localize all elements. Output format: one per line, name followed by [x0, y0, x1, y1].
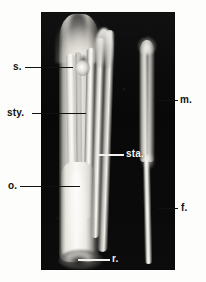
anther-groove: [146, 48, 149, 156]
leader-perianth: [114, 33, 140, 34]
leader-style: [32, 113, 86, 114]
specimen-detached-stamen: [129, 12, 173, 270]
label-ovary: o.: [8, 181, 17, 191]
specimen-photograph: [41, 12, 175, 270]
anther-cluster: [95, 28, 113, 68]
label-stigma: s.: [13, 62, 22, 72]
filament-stalk: [143, 160, 152, 264]
label-style: sty.: [7, 108, 24, 118]
leader-receptacle: [78, 259, 110, 261]
label-perianth: p.: [143, 28, 152, 38]
leader-ovary: [20, 186, 80, 187]
leader-stigma: [25, 67, 73, 68]
ovary-highlight: [69, 170, 85, 250]
specimen-whole-flower: [45, 12, 119, 270]
label-stamen: sta.: [126, 149, 144, 159]
anther-apex: [138, 37, 156, 55]
stigma-knob: [76, 60, 90, 76]
leader-filament: [158, 208, 178, 209]
receptacle-core: [69, 254, 89, 268]
label-receptacle: r.: [112, 254, 119, 264]
leader-stamen: [98, 154, 124, 156]
label-anther: m.: [180, 95, 192, 105]
botanical-figure: s. sty. o. p. m. f. sta. r.: [0, 0, 206, 282]
label-filament: f.: [181, 203, 188, 213]
leader-anther: [158, 100, 178, 101]
